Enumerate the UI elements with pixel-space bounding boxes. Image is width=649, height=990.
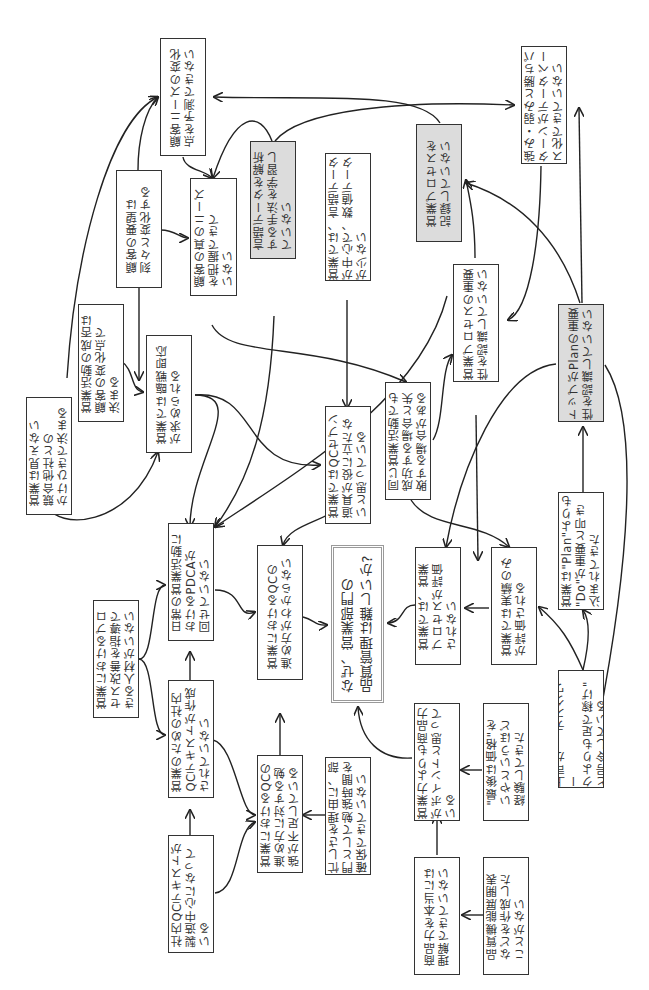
node-text: 上司が、"デスクワー クよりも足で稼げ" と号令している — [558, 671, 604, 787]
node-text: 営業におけるプロ セス改善を指導で きる人材がいない — [95, 609, 137, 709]
node-text: 同じ営業活動でも 成功する場合と失 敗する場合がある — [387, 391, 429, 491]
node-customer-needs-change-unpredictable: 顧客ニーズの変化 点を予測できない — [160, 38, 206, 156]
node-text: 営業におけるQCの 進め方がわからない — [266, 556, 294, 669]
node-text: 営業のための社内 QCテキストが作成 されていない — [170, 686, 212, 792]
node-qc-text-manufacturing-centered: 社内QCテキストが 製造中心になって いる — [168, 835, 214, 953]
node-text: 営業プロセスの重要 性を認識していない — [462, 267, 490, 380]
node-text: 顧客の要望は 刻々と変化する — [125, 185, 153, 273]
node-text: 営業力よりも商品力 がポイントと思って いる — [416, 706, 458, 819]
node-text: 営業におけるQCの 進め方に対する勉 強が不足している — [259, 761, 301, 867]
node-qc-approach-unknown: 営業におけるQCの 進め方がわからない — [257, 545, 303, 680]
node-text: 営業では実績のみ が評価される — [500, 556, 528, 656]
node-true-needs-not-grasped: 顧客の真のニーズ を把握できて いない — [190, 178, 237, 296]
node-same-activity-success-failure: 同じ営業活動でも 成功する場合と失 敗する場合がある — [385, 382, 431, 500]
node-sales-process-not-recorded: 営業プロセスを 記録していない — [416, 124, 462, 242]
node-text: 社内QCテキストが 製造中心になって いる — [170, 841, 212, 947]
node-text: 日常の営業活動に おけるPDCAが 回せていない — [170, 532, 212, 632]
node-qfd-never-created: 品質機能展開表 などを作成した ことがない — [483, 857, 529, 975]
node-price-decides-experience: "最後は価格"を いやというほど 経験してきた — [483, 703, 529, 821]
node-process-importance-not-recognized: 営業プロセスの重要 性を認識していない — [453, 264, 499, 382]
node-immediate-response-required: 営業では臨戦即応 が求められる — [146, 335, 192, 453]
node-text: 営業では、営業 プロセスが評価 されない — [417, 562, 459, 650]
node-sales-qc-text-not-created: 営業のための社内 QCテキストが作成 されていない — [168, 680, 214, 798]
node-text: 営業は見えない 競合他社との かけひきで決まる — [28, 406, 70, 506]
node-text: 言語データを解析 する手法を学習し ていない — [252, 150, 294, 250]
node-text: 忙しさを理由に、部 門として勉強時間を 確保できていない — [327, 760, 369, 873]
node-text: 営業活動の成否は 顧客の変化点で 決まる — [80, 313, 122, 413]
node-no-process-improvement-leader: 営業におけるプロ セス改善を指導で きる人材がいない — [93, 600, 139, 718]
node-language-data-analysis-not-learned: 言語データを解析 する手法を学習し ていない — [250, 141, 296, 259]
node-text: 顧客の真のニーズ を把握できて いない — [193, 187, 235, 287]
node-text: "最後は価格"を いやというほど 経験してきた — [485, 718, 527, 806]
node-success-decided-by-change-points: 営業活動の成否は 顧客の変化点で 決まる — [78, 304, 124, 422]
node-only-results-evaluated: 営業では実績のみ が評価される — [491, 547, 537, 665]
node-invisible-competitors: 営業は見えない 競合他社との かけひきで決まる — [26, 397, 72, 515]
node-top-plan-importance-not-recognized: トップがPlanの重要 性を認識していない — [558, 304, 604, 422]
node-text: 営業ではQCセブン 道具が役に立たな いと思っている — [327, 412, 369, 518]
node-insufficient-qc-study: 営業におけるQCの 進め方に対する勉 強が不足している — [257, 755, 303, 873]
node-do-over-plan-taught: 営業は"Plan"よりも "Do"が重要と叩き 込まれてきた — [558, 492, 604, 610]
node-strengths-not-databased: 強み・弱みと勝ちパ ターンがデータベー ス化できていない — [521, 46, 567, 164]
node-product-power-not-understood: 商品力を本当には 理解できていない — [414, 857, 460, 975]
node-text: 商品力を本当には 理解できていない — [423, 866, 451, 966]
node-text: 顧客ニーズの変化 点を予測できない — [169, 47, 197, 147]
node-text: 営業プロセスを 記録していない — [425, 139, 453, 227]
node-text: 品質機能展開表 などを作成した ことがない — [485, 872, 527, 960]
node-text: 強み・弱みと勝ちパ ターンがデータベー ス化できていない — [523, 49, 565, 162]
central-question-text: なぜ、営業部門の 品質管理は難しいか? — [339, 555, 377, 693]
node-customer-demand-changes: 顧客の要望は 刻々と変化する — [116, 170, 162, 288]
node-text: トップがPlanの重要 性を認識していない — [567, 306, 595, 420]
node-central-question: なぜ、営業部門の 品質管理は難しいか? — [331, 545, 384, 703]
node-qc-seven-tools-useless: 営業ではQCセブン 道具が役に立たな いと思っている — [325, 406, 371, 524]
node-sales-language-data-centered: 営業では、言語データ が中心で、数値データ が少ない — [325, 153, 371, 281]
node-product-power-over-sales: 営業力よりも商品力 がポイントと思って いる — [414, 703, 460, 821]
node-boss-legwork-order: 上司が、"デスクワー クよりも足で稼げ" と号令している — [558, 670, 604, 788]
node-process-not-evaluated: 営業では、営業 プロセスが評価 されない — [415, 547, 461, 665]
node-text: 営業では臨戦即応 が求められる — [155, 344, 183, 444]
node-no-study-time: 忙しさを理由に、部 門として勉強時間を 確保できていない — [325, 757, 371, 875]
node-text: 営業は"Plan"よりも "Do"が重要と叩き 込まれてきた — [560, 494, 602, 607]
relation-diagram: 顧客ニーズの変化 点を予測できない 顧客の要望は 刻々と変化する 顧客の真のニー… — [0, 0, 649, 990]
node-pdca-not-running: 日常の営業活動に おけるPDCAが 回せていない — [168, 523, 214, 641]
node-text: 営業では、言語データ が中心で、数値データ が少ない — [327, 155, 369, 280]
